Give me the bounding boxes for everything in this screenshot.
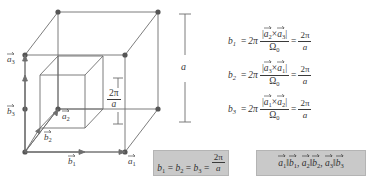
figure-page: a3 b3 a2 b2 b1 a1 a 2π a [0, 0, 370, 190]
eq1-result: 2π a [298, 30, 311, 52]
box-mag-num: 2π [212, 152, 225, 163]
label-lattice-constant-a: a [181, 62, 186, 72]
eq1-numerator: |a2×a3| [260, 29, 289, 41]
eq1-coefficient: 2π [248, 36, 258, 46]
eq2-lhs: b2 [228, 70, 236, 81]
box-mag-fraction: 2π a [212, 152, 225, 174]
eq1-denominator: Ω0 [260, 42, 289, 53]
arrowhead-b3 [23, 75, 28, 81]
eq2-numerator: |a3×a1| [260, 63, 289, 75]
eq3-equals2: = [291, 104, 296, 114]
eq1-equals: = [241, 36, 246, 46]
inner-edge [85, 56, 103, 75]
eq3-equals: = [241, 104, 246, 114]
equation-b3: b3 = 2π |a1×a2| Ω0 = 2π a [228, 92, 368, 126]
equation-b1: b1 = 2π |a2×a3| Ω0 = 2π a [228, 24, 368, 58]
eq1-equals2: = [291, 36, 296, 46]
label-vector-b2: b2 [44, 133, 52, 144]
eq2-equals: = [241, 70, 246, 80]
eq2-fraction: |a3×a1| Ω0 [260, 63, 289, 87]
label-vector-a3: a3 [7, 55, 15, 66]
vertex [122, 52, 127, 57]
inner-edge [40, 56, 58, 75]
eq3-result: 2π a [298, 98, 311, 120]
box-par-content: a1‖b1, a2‖b2, a3‖b3 [278, 158, 344, 169]
outer-edge [125, 109, 158, 152]
eq2-equals2: = [291, 70, 296, 80]
box-mag-den: a [212, 163, 225, 173]
eq1-result-num: 2π [298, 30, 311, 41]
eq2-result-den: a [298, 76, 311, 86]
vertex [155, 9, 160, 14]
equation-list: b1 = 2π |a2×a3| Ω0 = 2π a b2 = 2π |a3×a1… [228, 24, 368, 126]
label-vector-b3: b3 [7, 107, 15, 118]
label-vector-a1: a1 [128, 157, 136, 168]
eq1-fraction: |a2×a3| Ω0 [260, 29, 289, 53]
eq1-result-den: a [298, 42, 311, 52]
outer-edge [25, 12, 58, 55]
arrowhead-b1 [79, 150, 85, 155]
eq2-result: 2π a [298, 64, 311, 86]
eq3-denominator: Ω0 [260, 110, 289, 121]
arrowhead-b2 [36, 128, 40, 134]
eq3-coefficient: 2π [248, 104, 258, 114]
eq2-denominator: Ω0 [260, 76, 289, 87]
vertex [55, 9, 60, 14]
eq3-fraction: |a1×a2| Ω0 [260, 97, 289, 121]
inner-dim-denominator: a [111, 99, 116, 109]
label-vector-b1: b1 [68, 157, 76, 168]
box-magnitudes: b1 = b2 = b3 = 2π a [153, 150, 229, 176]
arrow-b2 [25, 131, 38, 152]
eq3-lhs: b3 [228, 104, 236, 115]
outer-edge [125, 12, 158, 55]
inner-edge [85, 109, 103, 128]
eq3-result-den: a [298, 110, 311, 120]
eq2-result-num: 2π [298, 64, 311, 75]
eq1-lhs: b1 [228, 36, 236, 47]
vertex [155, 106, 160, 111]
eq2-coefficient: 2π [248, 70, 258, 80]
equation-b2: b2 = 2π |a3×a1| Ω0 = 2π a [228, 58, 368, 92]
box-parallel-relations: a1‖b1, a2‖b2, a3‖b3 [256, 150, 366, 176]
eq3-numerator: |a1×a2| [260, 97, 289, 109]
label-vector-a2: a2 [62, 112, 70, 123]
box-mag-content: b1 = b2 = b3 = 2π a [157, 152, 224, 174]
eq3-result-num: 2π [298, 98, 311, 109]
label-inner-dimension: 2π a [107, 89, 121, 110]
